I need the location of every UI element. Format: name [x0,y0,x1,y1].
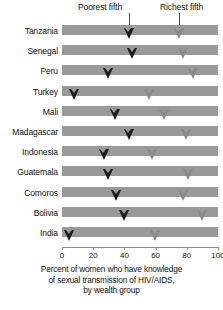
row-band [62,45,218,55]
category-label-madagascar: Madagascar [0,127,58,137]
marker-richest-fifth [147,149,157,160]
row-band [62,146,218,156]
category-label-mali: Mali [0,107,58,117]
caption-line-3: by wealth group [0,285,223,296]
x-tick-60 [156,247,157,250]
annotation-label-richest-fifth: Richest fifth [160,2,203,12]
row-band [62,106,218,116]
caption-line-1: Percent of women who have knowledge [0,264,223,275]
marker-richest-fifth [150,230,160,241]
chart-caption: Percent of women who have knowledge of s… [0,264,223,296]
marker-poorest-fifth [64,230,74,241]
marker-richest-fifth [144,89,154,100]
x-tick-20 [93,247,94,250]
category-label-indonesia: Indonesia [0,147,58,157]
row-band [62,166,218,176]
marker-richest-fifth [159,109,169,120]
category-label-turkey: Turkey [0,87,58,97]
x-axis-line [62,247,219,248]
x-tick-label-40: 40 [109,251,139,260]
marker-poorest-fifth [103,169,113,180]
marker-poorest-fifth [127,48,137,59]
category-label-bolivia: Bolivia [0,208,58,218]
row-band [62,25,218,35]
x-tick-100 [218,247,219,250]
marker-poorest-fifth [119,210,129,221]
annotation-label-poorest-fifth: Poorest fifth [78,2,122,12]
category-label-guatemala: Guatemala [0,167,58,177]
marker-richest-fifth [178,190,188,201]
marker-poorest-fifth [103,68,113,79]
category-label-india: India [0,228,58,238]
row-band [62,187,218,197]
caption-line-2: of sexual transmission of HIV/AIDS, [0,275,223,286]
marker-poorest-fifth [110,109,120,120]
marker-poorest-fifth [99,149,109,160]
row-band [62,227,218,237]
marker-poorest-fifth [111,190,121,201]
marker-poorest-fifth [69,89,79,100]
marker-poorest-fifth [124,129,134,140]
plot-area [62,25,218,247]
marker-richest-fifth [197,210,207,221]
x-tick-label-20: 20 [78,251,108,260]
row-band [62,126,218,136]
x-tick-label-100: 100 [203,251,223,260]
marker-poorest-fifth [124,28,134,39]
row-band [62,65,218,75]
marker-richest-fifth [174,28,184,39]
category-label-peru: Peru [0,66,58,76]
marker-richest-fifth [183,169,193,180]
marker-richest-fifth [188,68,198,79]
category-label-comoros: Comoros [0,188,58,198]
row-band [62,207,218,217]
category-label-senegal: Senegal [0,46,58,56]
category-label-tanzania: Tanzania [0,26,58,36]
row-band [62,86,218,96]
x-tick-0 [62,247,63,250]
x-tick-label-0: 0 [47,251,77,260]
hiv-knowledge-wealth-chart: Poorest fifth Richest fifth TanzaniaSene… [0,0,223,310]
x-tick-label-60: 60 [141,251,171,260]
marker-richest-fifth [181,129,191,140]
marker-richest-fifth [178,48,188,59]
x-tick-40 [124,247,125,250]
x-tick-label-80: 80 [172,251,202,260]
x-tick-80 [187,247,188,250]
